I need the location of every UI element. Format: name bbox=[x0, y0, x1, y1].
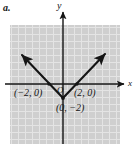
y-axis-label: y bbox=[57, 1, 61, 11]
right-x-intercept-label: (2, 0) bbox=[74, 88, 96, 98]
origin-label: O bbox=[57, 86, 64, 95]
x-axis-label: x bbox=[128, 79, 132, 88]
part-label: a. bbox=[3, 3, 11, 13]
coordinate-plot bbox=[0, 0, 138, 144]
point-right-x-intercept bbox=[75, 82, 78, 85]
point-vertex bbox=[61, 96, 65, 100]
left-x-intercept-label: (−2, 0) bbox=[14, 88, 42, 98]
vertex-label: (0, −2) bbox=[56, 103, 84, 113]
figure-panel: a. y x O (−2, 0) (2, 0) (0, −2) bbox=[0, 0, 138, 144]
axes-group bbox=[5, 12, 124, 144]
point-left-x-intercept bbox=[47, 82, 50, 85]
